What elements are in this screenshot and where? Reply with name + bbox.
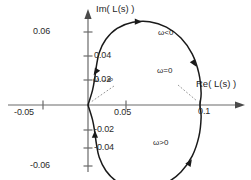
y-tick-label-004: 0.04 [94, 50, 111, 60]
imaginary-axis-label: Im( L(s) ) [96, 3, 135, 14]
annotation-leader-lines [91, 85, 197, 102]
annotation-omega-infinity: ω→∞ [93, 75, 113, 84]
arrow-traverse-top-rightward [135, 19, 142, 25]
x-tick-label-005: 0.05 [114, 107, 131, 117]
nyquist-contour-path [88, 21, 201, 180]
x-tick-label-neg005: -0.05 [14, 107, 34, 117]
annotation-omega-zero: ω=0 [157, 66, 172, 75]
nyquist-plot: Im( L(s) ) Re( L(s) ) -0.05 0.05 0.1 0.0… [0, 0, 251, 180]
curve-direction-arrows [92, 19, 197, 180]
imaginary-axis-arrowhead [84, 9, 91, 19]
y-tick-label-neg004: -0.04 [94, 142, 114, 152]
tick-marks-group [43, 32, 200, 166]
y-tick-label-006: 0.06 [33, 26, 50, 36]
real-axis-arrowhead [235, 101, 245, 108]
real-axis-label: Re( L(s) ) [196, 78, 236, 89]
y-tick-label-neg006: -0.06 [30, 160, 50, 170]
annotation-omega-positive: ω>0 [153, 138, 168, 147]
y-tick-label-neg002: -0.02 [94, 124, 114, 134]
nyquist-curve-group [88, 21, 201, 180]
leader-omega-zero [178, 85, 197, 101]
annotation-omega-negative: ω<0 [158, 28, 173, 37]
x-tick-label-01: 0.1 [198, 106, 210, 116]
leader-omega-inf [91, 86, 114, 102]
